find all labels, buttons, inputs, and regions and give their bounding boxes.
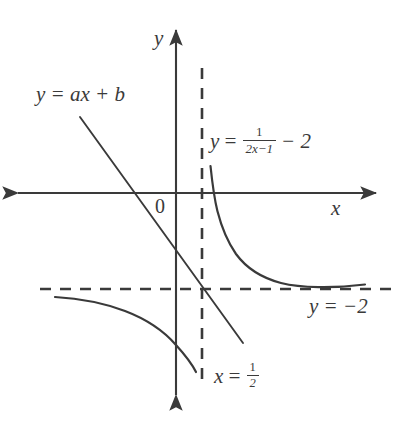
vertical-asymptote-fraction: 1 2	[247, 361, 259, 390]
hyperbola-denominator: 2x−1	[243, 142, 277, 156]
hyperbola-equation-tail: − 2	[281, 131, 311, 152]
plot-canvas	[0, 0, 415, 426]
vertical-asymptote-denominator: 2	[247, 377, 259, 390]
horizontal-asymptote-label: y = −2	[309, 296, 368, 317]
y-axis-label: y	[154, 28, 163, 49]
x-axis-label: x	[331, 198, 340, 219]
vertical-asymptote-equals: =	[227, 366, 241, 387]
vertical-asymptote-lhs: x	[214, 366, 223, 387]
line-equation-label: y = ax + b	[36, 84, 125, 105]
hyperbola-numerator: 1	[253, 125, 266, 139]
hyperbola-equation-lhs: y	[210, 131, 219, 152]
hyperbola-left-branch	[55, 297, 196, 372]
math-figure: y x 0 y = ax + b y = 1 2x−1 − 2 y = −2 x…	[0, 0, 415, 426]
origin-label: 0	[155, 196, 165, 216]
hyperbola-equation-label: y = 1 2x−1 − 2	[208, 126, 313, 156]
vertical-asymptote-label: x = 1 2	[212, 362, 262, 391]
hyperbola-equation-equals: =	[223, 131, 237, 152]
hyperbola-fraction: 1 2x−1	[243, 125, 277, 155]
vertical-asymptote-numerator: 1	[247, 361, 259, 374]
hyperbola-right-branch	[211, 166, 366, 287]
